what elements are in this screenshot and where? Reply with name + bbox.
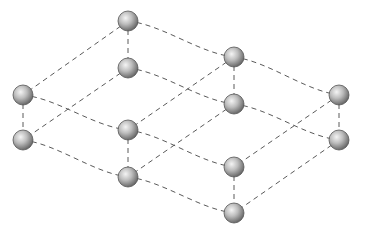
edge-A-B bbox=[128, 21, 234, 57]
sphere-node-D2 bbox=[13, 130, 33, 150]
sphere-node-E bbox=[118, 120, 138, 140]
edge-B-C bbox=[234, 57, 339, 95]
sphere-node-E2 bbox=[118, 167, 138, 187]
edge-E2-F2 bbox=[128, 177, 234, 213]
edge-B2-C2 bbox=[234, 104, 339, 140]
edge-C2-F2 bbox=[234, 140, 339, 213]
edge-C-F bbox=[234, 95, 339, 167]
edge-A-D bbox=[23, 21, 128, 95]
edge-A2-B2 bbox=[128, 68, 234, 104]
lattice-diagram bbox=[0, 0, 366, 236]
node-layer bbox=[13, 11, 349, 223]
edge-A2-D2 bbox=[23, 68, 128, 140]
sphere-node-A bbox=[118, 11, 138, 31]
sphere-node-B bbox=[224, 47, 244, 67]
edge-E-F bbox=[128, 130, 234, 167]
sphere-node-B2 bbox=[224, 94, 244, 114]
sphere-node-D bbox=[13, 85, 33, 105]
sphere-node-F2 bbox=[224, 203, 244, 223]
edge-B2-E2 bbox=[128, 104, 234, 177]
sphere-node-C bbox=[329, 85, 349, 105]
sphere-node-C2 bbox=[329, 130, 349, 150]
sphere-node-A2 bbox=[118, 58, 138, 78]
edge-layer bbox=[23, 21, 339, 213]
sphere-node-F bbox=[224, 157, 244, 177]
edge-B-E bbox=[128, 57, 234, 130]
edge-D2-E2 bbox=[23, 140, 128, 177]
edge-D-E bbox=[23, 95, 128, 130]
